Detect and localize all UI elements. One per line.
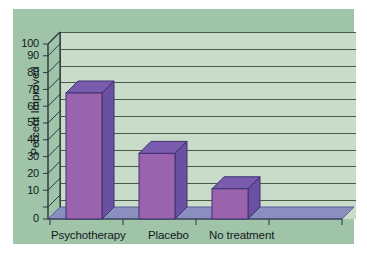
bar-front-face: [66, 93, 102, 219]
bar-placebo[interactable]: [139, 141, 187, 219]
bar-series: [13, 9, 354, 244]
chart-figure: 100 90 80 70 60 50 40 30 20 10 0 Percent…: [0, 0, 367, 254]
y-tick-label-0: 0: [9, 212, 39, 224]
x-tick-label-psychotherapy: Psychotherapy: [51, 229, 126, 241]
bar-no-treatment[interactable]: [212, 177, 260, 219]
y-tick-label-100: 100: [9, 37, 39, 49]
y-tick-label-10: 10: [9, 184, 39, 196]
bar-front-face: [212, 189, 248, 219]
x-tick-label-no-treatment: No treatment: [209, 229, 274, 241]
bar-side-face: [175, 141, 187, 219]
chart-panel: 100 90 80 70 60 50 40 30 20 10 0 Percent…: [13, 9, 354, 244]
y-axis-title: Percent Improved: [29, 51, 41, 171]
x-tick-label-placebo: Placebo: [148, 229, 189, 241]
bar-psychotherapy[interactable]: [66, 81, 114, 219]
bar-side-face: [102, 81, 114, 219]
bar-front-face: [139, 153, 175, 219]
